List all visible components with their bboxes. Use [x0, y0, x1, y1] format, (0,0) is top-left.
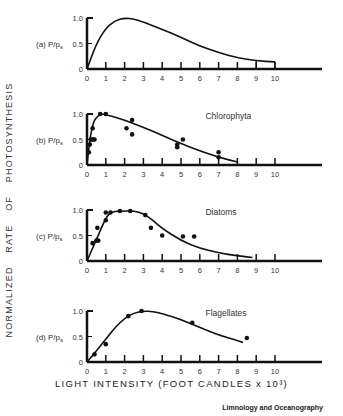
y-tick-label: 0 — [79, 358, 83, 367]
panel-c: 01234567891000.51.0(c) P/psDiatoms — [36, 206, 322, 275]
x-tick-label: 5 — [179, 266, 183, 275]
x-tick-label: 8 — [235, 367, 239, 376]
data-point — [95, 226, 100, 231]
data-point — [88, 142, 93, 147]
x-tick-label: 0 — [85, 266, 89, 275]
data-point — [216, 155, 221, 160]
x-tick-label: 9 — [254, 367, 258, 376]
y-tick-label: 0 — [79, 257, 83, 266]
x-tick-label: 6 — [198, 367, 202, 376]
panel-title: Diatoms — [205, 207, 236, 217]
panel-ylabel: (d) P/ps — [36, 333, 63, 343]
x-tick-label: 9 — [254, 170, 258, 179]
x-tick-label: 7 — [217, 170, 221, 179]
y-axis-label: NORMALIZED RATE OF PHOTOSYNTHESIS — [2, 60, 16, 360]
data-point — [104, 210, 109, 215]
data-point — [175, 145, 180, 150]
x-tick-label: 8 — [235, 266, 239, 275]
x-tick-label: 8 — [235, 170, 239, 179]
data-point — [92, 352, 97, 357]
x-tick-label: 6 — [198, 266, 202, 275]
journal-credit: Limnology and Oceanography — [222, 404, 323, 411]
x-tick-label: 2 — [123, 170, 127, 179]
fit-curve — [87, 114, 237, 165]
x-axis-label: LIGHT INTENSITY (FOOT CANDLES x 10³) — [0, 378, 343, 389]
y-tick-label: 1.0 — [73, 14, 83, 23]
x-tick-label: 7 — [217, 74, 221, 83]
x-tick-label: 0 — [85, 74, 89, 83]
x-tick-label: 4 — [160, 170, 164, 179]
x-tick-label: 3 — [141, 367, 145, 376]
y-tick-label: 0.5 — [73, 136, 83, 145]
data-point — [181, 234, 186, 239]
panel-title: Flagellates — [205, 308, 246, 318]
x-tick-label: 2 — [123, 266, 127, 275]
data-point — [130, 118, 135, 123]
data-point — [190, 320, 195, 325]
x-tick-label: 4 — [160, 74, 164, 83]
panel-d: 01234567891000.51.0(d) P/psFlagellates — [36, 307, 322, 376]
x-tick-label: 5 — [179, 74, 183, 83]
data-point — [130, 132, 135, 137]
data-point — [108, 210, 113, 215]
x-tick-label: 10 — [271, 367, 279, 376]
panel-ylabel: (b) P/ps — [36, 136, 63, 146]
data-point — [245, 336, 250, 341]
x-tick-label: 5 — [179, 367, 183, 376]
figure-canvas: 01234567891000.51.0(a) P/ps0123456789100… — [0, 0, 343, 416]
data-point — [92, 137, 97, 142]
data-point — [104, 218, 109, 223]
data-point — [181, 137, 186, 142]
x-tick-label: 7 — [217, 367, 221, 376]
x-tick-label: 1 — [104, 74, 108, 83]
x-tick-label: 0 — [85, 170, 89, 179]
x-tick-label: 10 — [271, 266, 279, 275]
x-tick-label: 2 — [123, 367, 127, 376]
data-point — [143, 213, 148, 218]
x-tick-label: 3 — [141, 74, 145, 83]
data-point — [87, 150, 92, 155]
x-tick-label: 9 — [254, 266, 258, 275]
x-tick-label: 1 — [104, 170, 108, 179]
panel-a: 01234567891000.51.0(a) P/ps — [36, 14, 322, 83]
data-point — [192, 234, 197, 239]
y-tick-label: 0 — [79, 161, 83, 170]
y-tick-label: 0 — [79, 65, 83, 74]
y-tick-label: 0.5 — [73, 40, 83, 49]
y-tick-label: 1.0 — [73, 307, 83, 316]
data-point — [104, 342, 109, 347]
data-point — [126, 314, 131, 319]
fit-curve — [87, 18, 275, 69]
data-point — [90, 126, 95, 131]
x-tick-label: 7 — [217, 266, 221, 275]
data-point — [149, 226, 154, 231]
panel-ylabel: (a) P/ps — [36, 40, 63, 50]
data-point — [96, 238, 101, 243]
x-tick-label: 6 — [198, 74, 202, 83]
panel-ylabel: (c) P/ps — [36, 232, 63, 242]
x-tick-label: 2 — [123, 74, 127, 83]
x-tick-label: 10 — [271, 170, 279, 179]
x-tick-label: 5 — [179, 170, 183, 179]
data-point — [98, 112, 103, 117]
y-axis-label-text: NORMALIZED RATE OF PHOTOSYNTHESIS — [4, 83, 14, 338]
x-tick-label: 3 — [141, 170, 145, 179]
y-tick-label: 0.5 — [73, 232, 83, 241]
data-point — [128, 209, 133, 214]
data-point — [90, 241, 95, 246]
panel-b: 01234567891000.51.0(b) P/psChlorophyta — [36, 110, 322, 179]
x-tick-label: 4 — [160, 367, 164, 376]
y-tick-label: 1.0 — [73, 110, 83, 119]
data-point — [160, 233, 165, 238]
data-point — [104, 112, 109, 117]
fit-curve — [87, 311, 243, 362]
x-tick-label: 4 — [160, 266, 164, 275]
x-tick-label: 1 — [104, 266, 108, 275]
y-tick-label: 1.0 — [73, 206, 83, 215]
panel-title: Chlorophyta — [205, 111, 251, 121]
x-tick-label: 8 — [235, 74, 239, 83]
data-point — [139, 309, 144, 314]
x-tick-label: 10 — [271, 74, 279, 83]
data-point — [124, 126, 129, 131]
fit-curve — [87, 211, 252, 261]
